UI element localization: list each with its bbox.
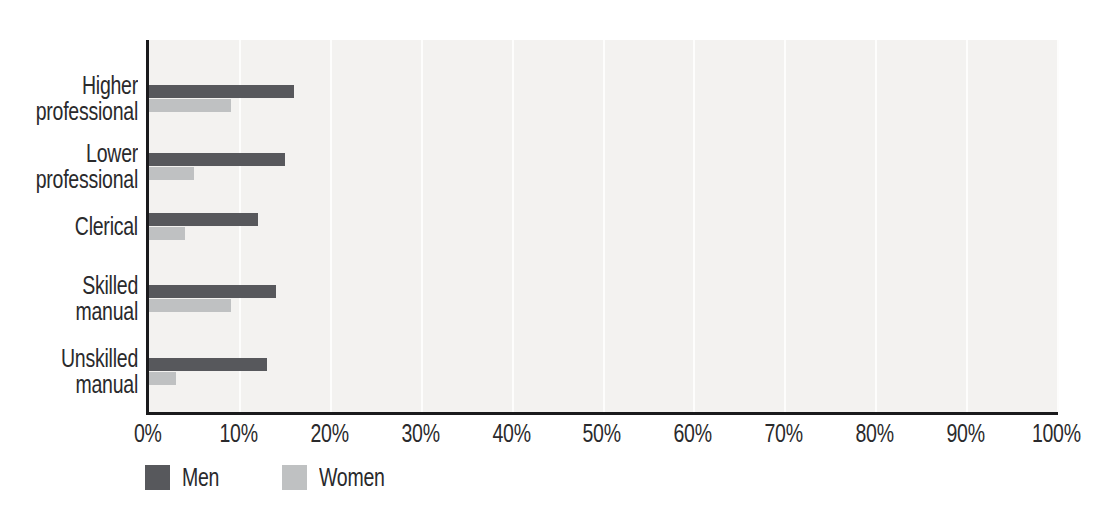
gridline-70pct [784, 40, 786, 412]
gridline-30pct [421, 40, 423, 412]
x-tick-0pct: 0% [103, 420, 193, 446]
category-label-text: Lower professional [30, 140, 138, 192]
legend-label-men: Men [182, 464, 219, 490]
x-tick-text: 80% [856, 420, 894, 446]
x-tick-70pct: 70% [739, 420, 829, 446]
bar-women-unskilled-manual [149, 372, 176, 385]
gridline-40pct [512, 40, 514, 412]
bar-men-skilled-manual [149, 285, 276, 298]
x-tick-100pct: 100% [1012, 420, 1102, 446]
gridline-60pct [693, 40, 695, 412]
x-tick-60pct: 60% [648, 420, 738, 446]
x-tick-text: 70% [765, 420, 803, 446]
category-label-skilled-manual: Skilled manual [0, 271, 138, 325]
legend-swatch-women [282, 465, 307, 490]
x-tick-20pct: 20% [284, 420, 374, 446]
x-tick-40pct: 40% [466, 420, 556, 446]
x-tick-text: 0% [134, 420, 162, 446]
legend: Men Women [145, 464, 403, 490]
x-tick-text: 20% [310, 420, 348, 446]
category-labels: Higher professionalLower professionalCle… [0, 0, 138, 415]
gridline-90pct [966, 40, 968, 412]
category-label-text: Higher professional [30, 72, 138, 124]
x-tick-text: 90% [946, 420, 984, 446]
x-tick-text: 30% [401, 420, 439, 446]
bar-men-unskilled-manual [149, 358, 267, 371]
x-tick-text: 100% [1032, 420, 1081, 446]
category-label-unskilled-manual: Unskilled manual [0, 344, 138, 398]
category-label-higher-professional: Higher professional [0, 71, 138, 125]
gridline-100pct [1057, 40, 1059, 412]
figure: Higher professionalLower professionalCle… [0, 0, 1106, 521]
x-tick-text: 60% [674, 420, 712, 446]
x-axis-tick-labels: 0%10%20%30%40%50%60%70%80%90%100% [146, 420, 1106, 448]
x-tick-10pct: 10% [193, 420, 283, 446]
category-label-text: Unskilled manual [30, 345, 138, 397]
x-tick-30pct: 30% [375, 420, 465, 446]
plot-area [146, 40, 1058, 415]
legend-label-women: Women [319, 464, 385, 490]
legend-item-men: Men [145, 464, 230, 490]
gridline-20pct [330, 40, 332, 412]
category-label-lower-professional: Lower professional [0, 139, 138, 193]
gridline-80pct [875, 40, 877, 412]
bar-women-skilled-manual [149, 299, 231, 312]
legend-swatch-men [145, 465, 170, 490]
x-tick-text: 10% [219, 420, 257, 446]
category-label-text: Clerical [75, 213, 138, 239]
legend-item-women: Women [282, 464, 403, 490]
bar-men-lower-professional [149, 153, 285, 166]
category-label-clerical: Clerical [0, 199, 138, 253]
bar-women-lower-professional [149, 167, 194, 180]
bar-women-higher-professional [149, 99, 231, 112]
bar-men-higher-professional [149, 85, 294, 98]
x-tick-text: 50% [583, 420, 621, 446]
bar-women-clerical [149, 227, 185, 240]
x-tick-text: 40% [492, 420, 530, 446]
bar-men-clerical [149, 213, 258, 226]
category-label-text: Skilled manual [30, 272, 138, 324]
x-tick-80pct: 80% [830, 420, 920, 446]
gridline-50pct [603, 40, 605, 412]
x-tick-90pct: 90% [921, 420, 1011, 446]
x-tick-50pct: 50% [557, 420, 647, 446]
